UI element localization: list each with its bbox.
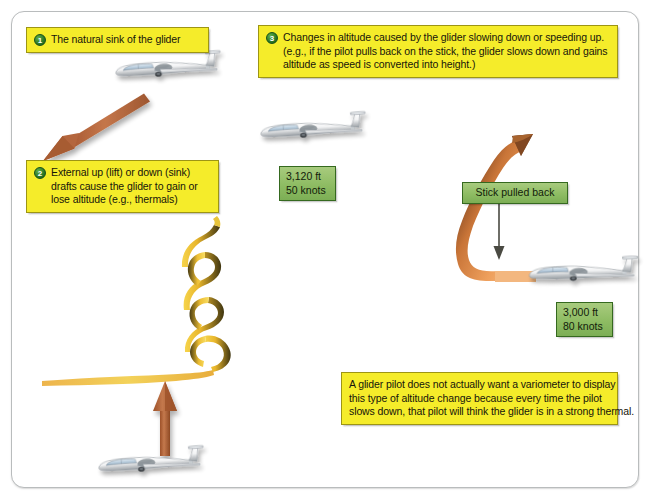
stick-pulled-back-text: Stick pulled back xyxy=(469,186,561,200)
callout-1-text: The natural sink of the glider xyxy=(51,33,181,47)
readout-lower-speed: 80 knots xyxy=(563,320,606,334)
readout-lower: 3,000 ft 80 knots xyxy=(556,302,613,337)
callout-note-text: A glider pilot does not actually want a … xyxy=(349,378,609,419)
readout-upper-altitude: 3,120 ft xyxy=(286,170,329,184)
readout-lower-altitude: 3,000 ft xyxy=(563,306,606,320)
step-badge-1: 1 xyxy=(34,34,46,46)
callout-3-text: Changes in altitude caused by the glider… xyxy=(283,31,608,72)
diagram-canvas: 1 The natural sink of the glider 2 Exter… xyxy=(0,0,653,504)
step-badge-3: 3 xyxy=(266,32,278,44)
readout-upper: 3,120 ft 50 knots xyxy=(279,166,336,201)
callout-note: A glider pilot does not actually want a … xyxy=(341,372,618,425)
callout-1: 1 The natural sink of the glider xyxy=(26,27,209,53)
callout-2-text: External up (lift) or down (sink) drafts… xyxy=(51,166,198,207)
callout-2: 2 External up (lift) or down (sink) draf… xyxy=(26,160,219,213)
step-badge-2: 2 xyxy=(34,167,46,179)
readout-upper-speed: 50 knots xyxy=(286,184,329,198)
callout-3: 3 Changes in altitude caused by the glid… xyxy=(258,25,618,78)
stick-pulled-back-label: Stick pulled back xyxy=(462,182,568,204)
